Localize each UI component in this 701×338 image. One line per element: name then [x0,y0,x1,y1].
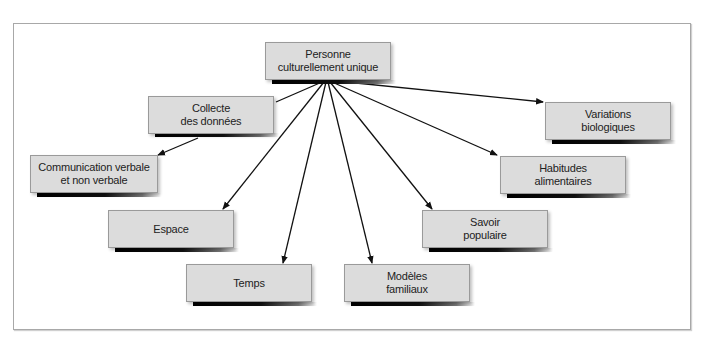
node-espace: Espace [108,210,234,248]
edge-root-habitudes [332,82,497,155]
node-label: Variations biologiques [581,108,634,134]
node-label: Espace [153,223,189,236]
node-label: Habitudes alimentaires [535,162,592,188]
node-communication: Communication verbale et non verbale [30,155,158,193]
node-shadow [37,193,161,197]
node-label: Collecte des données [181,102,242,128]
node-habitudes-alimentaires: Habitudes alimentaires [500,156,626,194]
edge-root-savoir [330,82,432,209]
edge-root-modeles [328,82,372,263]
node-shadow [115,248,239,252]
node-label: Personne culturellement unique [278,48,378,74]
node-shadow [272,80,396,84]
node-label: Savoir populaire [463,216,506,242]
edge-root-variations [336,81,543,102]
node-label: Communication verbale et non verbale [38,161,149,187]
edge-root-temps [283,82,326,263]
node-modeles-familiaux: Modèles familiaux [344,264,470,302]
node-temps: Temps [186,264,312,302]
node-shadow [193,302,317,306]
node-collecte-des-donnees: Collecte des données [148,96,274,134]
edge-root-collecte [276,82,322,102]
node-label: Modèles familiaux [386,270,428,296]
node-shadow [429,248,553,252]
node-shadow [351,302,475,306]
node-shadow [507,194,631,198]
node-personne-culturellement-unique: Personne culturellement unique [265,42,391,80]
edge-collecte-communication [158,138,198,155]
node-variations-biologiques: Variations biologiques [545,102,671,140]
node-label: Temps [233,277,264,290]
node-savoir-populaire: Savoir populaire [422,210,548,248]
node-shadow [552,140,676,144]
